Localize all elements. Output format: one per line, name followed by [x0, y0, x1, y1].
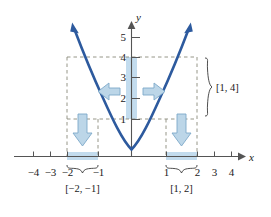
x-axis-arrowhead	[238, 153, 246, 161]
range-interval-label: [1, 4]	[216, 82, 239, 93]
text-labels: y x −4 −3 −2 −1 1 2 3 4 1 2 3 4 5 [1, 4]…	[28, 11, 254, 194]
domain-right-brace	[166, 165, 197, 173]
x-tick-label-1: 1	[164, 166, 170, 178]
x-tick-label-3: 3	[212, 166, 218, 178]
y-tick-label-2: 2	[121, 92, 127, 104]
y-tick-label-1: 1	[121, 113, 127, 125]
x-tick-label--1: −1	[93, 166, 105, 178]
graph-canvas: y x −4 −3 −2 −1 1 2 3 4 1 2 3 4 5 [1, 4]…	[0, 0, 271, 217]
x-axis-label: x	[248, 151, 254, 163]
arrow-right-icon	[143, 83, 165, 100]
y-axis-label: y	[135, 11, 141, 23]
parabola-left-arrowhead	[70, 23, 79, 34]
y-axis-arrowhead	[128, 21, 136, 29]
x-tick-label--3: −3	[45, 166, 57, 178]
domain-right-interval-label: [1, 2]	[170, 183, 193, 194]
parabola-right-arrowhead	[184, 23, 193, 34]
arrow-left-icon	[98, 83, 120, 100]
math-figure: y x −4 −3 −2 −1 1 2 3 4 1 2 3 4 5 [1, 4]…	[0, 0, 271, 217]
y-tick-label-4: 4	[121, 51, 127, 63]
x-tick-label--2: −2	[62, 166, 74, 178]
range-brace	[205, 58, 212, 116]
x-tick-label--4: −4	[28, 166, 40, 178]
y-tick-label-3: 3	[121, 71, 127, 83]
x-tick-label-2: 2	[195, 166, 201, 178]
x-tick-label-4: 4	[229, 166, 235, 178]
domain-left-interval-label: [−2, −1]	[65, 183, 100, 194]
arrow-down-right-icon	[172, 114, 191, 146]
y-tick-label-5: 5	[121, 31, 127, 43]
